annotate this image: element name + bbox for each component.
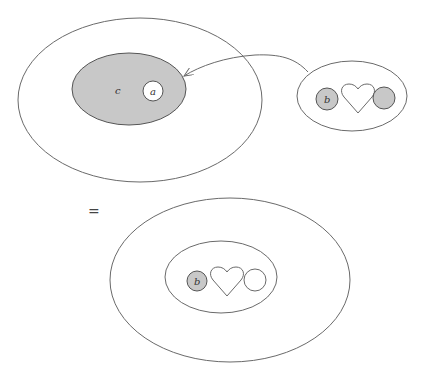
white-circle-bottom [244,269,266,291]
bottom-outer-ellipse [110,198,350,362]
label-b-bottom: b [194,276,200,287]
label-a: a [150,86,156,97]
diagram-canvas: c a b = b [0,0,423,380]
arrow-icon [184,55,308,76]
top-group: c a b [18,18,407,182]
gray-circle-top [373,87,395,109]
equals-sign: = [88,203,100,219]
gray-ellipse-c [72,53,186,125]
label-b-top: b [324,94,330,105]
heart-icon-bottom [211,267,244,296]
label-c: c [115,85,121,96]
bottom-inner-ellipse [165,241,277,313]
heart-icon-top [342,84,375,113]
bottom-group: b [110,198,350,362]
